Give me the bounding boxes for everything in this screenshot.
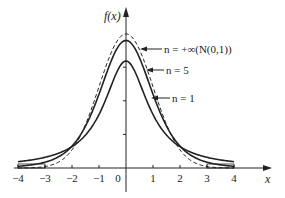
x-tick-label: −1 [93, 172, 105, 184]
x-tick-label: −4 [12, 172, 24, 184]
annotation-n5: n = 5 [146, 64, 189, 76]
x-axis-label: x [264, 172, 271, 186]
annotation-n1: n = 1 [151, 92, 195, 104]
annotation-label: n = 1 [172, 92, 195, 104]
x-tick-label: 1 [150, 172, 156, 184]
y-axis-label: f(x) [104, 9, 121, 23]
x-tick-label: −2 [66, 172, 78, 184]
x-tick-label: 2 [177, 172, 183, 184]
arrow-icon [140, 47, 147, 52]
chart: −4−3−2−101234 f(x) x n = +∞(N(0,1)) n = … [0, 0, 285, 198]
x-axis-arrow-icon [263, 165, 272, 171]
x-tick-label: 0 [115, 172, 121, 184]
annotation-label: n = +∞(N(0,1)) [164, 43, 232, 56]
x-tick-label: −3 [39, 172, 51, 184]
y-axis-arrow-icon [123, 7, 129, 17]
annotation-inf: n = +∞(N(0,1)) [140, 43, 232, 56]
x-tick-label: 4 [231, 172, 237, 184]
x-tick-label: 3 [204, 172, 210, 184]
annotation-label: n = 5 [166, 64, 189, 76]
